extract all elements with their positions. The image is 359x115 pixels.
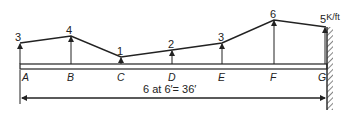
station-label-a: A	[21, 71, 29, 83]
load-value-b: 4	[66, 24, 72, 36]
load-value-e: 3	[218, 31, 224, 43]
load-value-g: 5K/ft	[320, 12, 340, 25]
station-label-c: C	[117, 71, 125, 83]
station-label-e: E	[218, 71, 226, 83]
beam-load-diagram: 3 4 1 2 3 6 5K/ft A B C D E F G 6 at 6′=…	[0, 0, 359, 115]
station-labels: A B C D E F G	[21, 71, 326, 83]
station-label-b: B	[67, 71, 74, 83]
unit-label: K/ft	[326, 12, 340, 22]
dimension-label: 6 at 6′= 36′	[143, 83, 196, 95]
station-label-g: G	[318, 71, 326, 83]
station-label-d: D	[168, 71, 176, 83]
load-value-f: 6	[270, 8, 276, 20]
load-value-a: 3	[15, 31, 21, 43]
beam	[20, 64, 327, 69]
station-label-f: F	[270, 71, 277, 83]
load-value-d: 2	[168, 38, 174, 50]
fixed-wall-support	[327, 27, 333, 110]
load-value-c: 1	[117, 45, 123, 57]
